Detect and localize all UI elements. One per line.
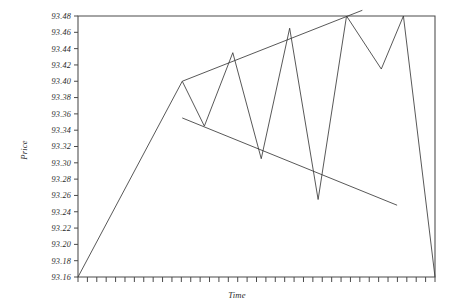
y-axis-tick-label: 93.22 <box>52 224 71 233</box>
y-axis-tick-label: 93.36 <box>52 110 72 119</box>
x-axis-title: Time <box>228 290 246 300</box>
price-series-line <box>78 16 435 277</box>
y-axis-tick-label: 93.38 <box>52 93 71 102</box>
y-axis-tick-label: 93.26 <box>52 191 72 200</box>
y-axis-ticks <box>74 16 78 277</box>
y-axis-tick-label: 93.28 <box>52 175 71 184</box>
y-axis-tick-label: 93.46 <box>52 28 72 37</box>
frame-border <box>78 16 435 277</box>
y-axis-tick-label: 93.20 <box>52 240 71 249</box>
y-axis-tick-label: 93.16 <box>52 273 72 282</box>
y-axis-tick-label: 93.32 <box>52 142 71 151</box>
y-axis-title: Price <box>19 140 29 161</box>
y-axis-tick-label: 93.34 <box>52 126 71 135</box>
lower-trendline <box>182 118 397 205</box>
y-axis-tick-label: 93.48 <box>52 12 71 21</box>
y-axis-tick-label: 93.30 <box>52 159 71 168</box>
price-time-line-chart: 93.4893.4693.4493.4293.4093.3893.3693.34… <box>0 0 460 307</box>
plot-frame <box>78 16 435 277</box>
y-axis-tick-label: 93.42 <box>52 61 71 70</box>
y-axis-tick-labels: 93.4893.4693.4493.4293.4093.3893.3693.34… <box>52 12 72 282</box>
chart-container: 93.4893.4693.4493.4293.4093.3893.3693.34… <box>0 0 460 307</box>
y-axis-tick-label: 93.44 <box>52 45 71 54</box>
y-axis-tick-label: 93.18 <box>52 257 71 266</box>
y-axis-tick-label: 93.24 <box>52 208 71 217</box>
x-axis-ticks <box>78 277 435 282</box>
upper-trendline <box>182 10 362 81</box>
y-axis-tick-label: 93.40 <box>52 77 71 86</box>
